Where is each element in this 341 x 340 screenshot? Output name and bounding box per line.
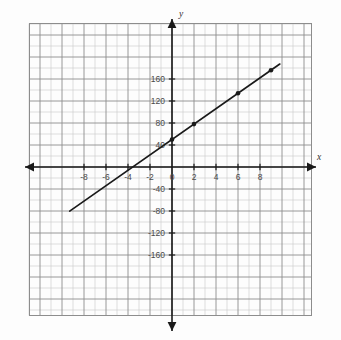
y-tick-label: -40: [153, 184, 166, 194]
x-tick-label: 6: [236, 172, 241, 182]
x-tick-label: 4: [214, 172, 219, 182]
y-tick-label: 160: [151, 74, 165, 84]
x-tick-label: -4: [124, 172, 132, 182]
y-tick-label: 120: [151, 96, 165, 106]
y-tick-label: 80: [156, 118, 166, 128]
coordinate-plane: -8-6-4-2024681601208040-40-80-120-160 x …: [0, 0, 341, 340]
major-gridlines: [30, 24, 312, 316]
data-point: [192, 122, 197, 127]
data-point: [170, 137, 175, 142]
x-tick-label: 2: [192, 172, 197, 182]
x-tick-label: -2: [146, 172, 154, 182]
y-tick-label: -120: [148, 228, 165, 238]
y-tick-label: -80: [153, 206, 166, 216]
y-tick-label: -160: [148, 250, 165, 260]
x-tick-label: -6: [102, 172, 110, 182]
data-point: [236, 91, 241, 96]
x-tick-label: -8: [80, 172, 88, 182]
data-point: [269, 68, 274, 73]
minor-gridlines: [29, 24, 312, 316]
x-tick-label: 8: [258, 172, 263, 182]
graph-container: -8-6-4-2024681601208040-40-80-120-160 x …: [0, 0, 341, 340]
x-axis-label: x: [316, 152, 322, 162]
y-axis-label: y: [178, 9, 184, 19]
x-tick-label: 0: [170, 172, 175, 182]
plot-border: [30, 24, 312, 316]
